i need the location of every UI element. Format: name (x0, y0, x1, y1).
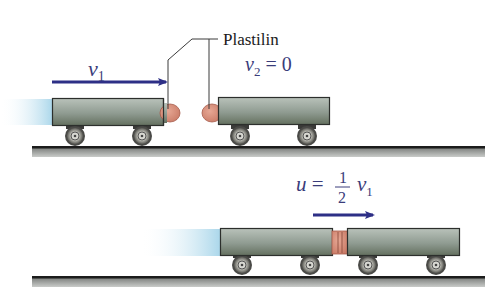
motion-blur-bottom (140, 229, 221, 256)
bottom-scene: u = 1 2 v1 (32, 169, 485, 287)
cart-body-left (221, 229, 333, 256)
wheel-icon (232, 254, 252, 275)
cart-body (53, 99, 164, 126)
track-bottom (32, 276, 485, 287)
velocity-label-v2: v2 = 0 (245, 53, 292, 79)
motion-blur-top (0, 99, 53, 125)
clay-label: Plastilin (223, 30, 279, 49)
wheel-icon (426, 254, 446, 275)
wheel-icon (358, 254, 378, 275)
wheel-icon (297, 125, 317, 146)
clay-leader-lines (168, 39, 218, 109)
merged-clay (332, 231, 348, 254)
cart-1 (53, 99, 181, 147)
velocity-label-v1: v1 (88, 56, 105, 84)
svg-text:2: 2 (338, 189, 346, 206)
cart-body (219, 98, 330, 125)
svg-text:u =: u = (296, 172, 324, 196)
wheel-icon (132, 125, 152, 146)
cart-2 (202, 98, 330, 147)
wheel-icon (65, 125, 85, 146)
final-velocity-label: u = 1 2 v1 (296, 169, 373, 206)
wheel-icon (300, 254, 320, 275)
top-scene: v1 Plastilin v2 = 0 (0, 30, 485, 157)
track-top (32, 146, 485, 157)
wheel-icon (230, 125, 250, 146)
collision-diagram: v1 Plastilin v2 = 0 u = (0, 0, 499, 287)
svg-text:1: 1 (339, 169, 347, 186)
cart-body-right (348, 229, 460, 256)
svg-text:v1: v1 (357, 172, 373, 199)
